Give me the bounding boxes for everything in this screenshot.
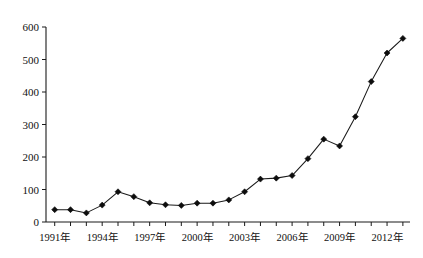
y-tick-label: 100 [23, 184, 40, 196]
chart-canvas: 0100200300400500600 1991年1994年1997年2000年… [0, 0, 423, 258]
y-tick-label: 300 [23, 119, 40, 131]
chart-background [0, 0, 423, 258]
x-tick-label: 1994年 [87, 231, 118, 243]
line-chart: 0100200300400500600 1991年1994年1997年2000年… [0, 0, 423, 258]
x-tick-label: 2009年 [324, 231, 355, 243]
y-tick-label: 200 [23, 151, 40, 163]
y-tick-label: 0 [34, 216, 40, 228]
y-tick-label: 500 [23, 54, 40, 66]
x-tick-label: 1997年 [134, 231, 165, 243]
x-tick-label: 2003年 [229, 231, 260, 243]
x-tick-label: 1991年 [39, 231, 70, 243]
x-tick-label: 2006年 [277, 231, 308, 243]
y-tick-label: 400 [23, 86, 40, 98]
x-tick-label: 2012年 [372, 231, 403, 243]
y-tick-label: 600 [23, 21, 40, 33]
x-tick-label: 2000年 [182, 231, 213, 243]
